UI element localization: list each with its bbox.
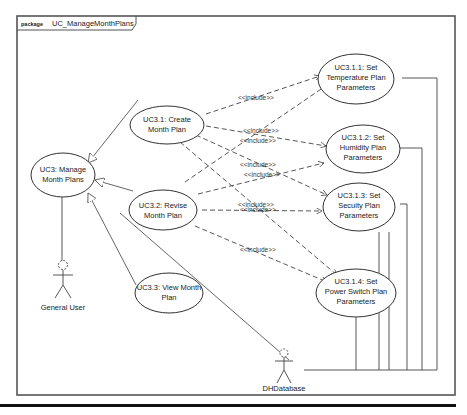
svg-text:Parameters: Parameters bbox=[337, 297, 376, 306]
svg-text:Month Plan: Month Plan bbox=[148, 125, 186, 134]
actor-label: DHDatabase bbox=[263, 384, 306, 393]
svg-text:UC3.2: Revise: UC3.2: Revise bbox=[139, 201, 187, 210]
svg-text:Parameters: Parameters bbox=[337, 83, 376, 92]
svg-text:Humidity Plan: Humidity Plan bbox=[340, 143, 386, 152]
svg-text:Parameters: Parameters bbox=[340, 211, 379, 220]
use-case-uc313[interactable]: UC3.1.3: Set Secuity Plan Parameters bbox=[323, 183, 395, 231]
svg-text:UC3.3: View Month: UC3.3: View Month bbox=[137, 283, 201, 292]
include-labels: <<include>> <<include>> <<include>> <<in… bbox=[238, 94, 280, 253]
svg-text:Power Switch Plan: Power Switch Plan bbox=[325, 287, 388, 296]
svg-text:Secuity Plan: Secuity Plan bbox=[338, 201, 380, 210]
include-label: <<include>> bbox=[240, 206, 276, 213]
actor-label: General User bbox=[41, 303, 86, 312]
use-case-diagram: package UC_ManageMonthPlans <<include>> … bbox=[0, 0, 467, 415]
include-label: <<include>> bbox=[240, 161, 276, 168]
svg-text:UC3.1.4: Set: UC3.1.4: Set bbox=[335, 277, 379, 286]
svg-text:UC3.1: Create: UC3.1: Create bbox=[143, 115, 191, 124]
use-case-uc31[interactable]: UC3.1: Create Month Plan bbox=[130, 106, 204, 144]
generalization-uc32 bbox=[95, 180, 133, 191]
svg-text:Temperature Plan: Temperature Plan bbox=[326, 73, 385, 82]
include-label: <<include>> bbox=[243, 127, 279, 134]
svg-text:UC3.1.2: Set: UC3.1.2: Set bbox=[342, 133, 386, 142]
actor-general-user[interactable]: General User bbox=[41, 261, 86, 313]
use-case-uc3[interactable]: UC3: Manage Month Plans bbox=[31, 153, 95, 197]
svg-text:UC3.1.3: Set: UC3.1.3: Set bbox=[338, 191, 382, 200]
actor-head-icon bbox=[280, 349, 288, 357]
frame-title: UC_ManageMonthPlans bbox=[52, 19, 134, 28]
include-label: <<include>> bbox=[238, 94, 274, 101]
page-rule bbox=[0, 404, 456, 407]
generalization-uc31 bbox=[88, 100, 138, 163]
generalization-uc33 bbox=[88, 193, 136, 285]
actor-dhdatabase[interactable]: DHDatabase bbox=[263, 349, 306, 393]
include-label: <<include>> bbox=[244, 171, 280, 178]
svg-text:Month Plan: Month Plan bbox=[144, 211, 182, 220]
use-case-uc32[interactable]: UC3.2: Revise Month Plan bbox=[129, 190, 197, 230]
frame-keyword: package bbox=[21, 21, 43, 27]
use-case-uc314[interactable]: UC3.1.4: Set Power Switch Plan Parameter… bbox=[316, 269, 396, 317]
use-case-uc311[interactable]: UC3.1.1: Set Temperature Plan Parameters bbox=[318, 54, 394, 104]
svg-text:Plan: Plan bbox=[161, 293, 176, 302]
actor-head-icon bbox=[59, 261, 68, 270]
include-label: <<include>> bbox=[240, 246, 276, 253]
use-case-uc33[interactable]: UC3.3: View Month Plan bbox=[135, 273, 203, 313]
svg-text:Parameters: Parameters bbox=[344, 153, 383, 162]
svg-text:UC3: Manage: UC3: Manage bbox=[40, 165, 86, 174]
include-label: <<include>> bbox=[240, 137, 276, 144]
use-case-uc312[interactable]: UC3.1.2: Set Humidity Plan Parameters bbox=[326, 125, 400, 173]
svg-text:UC3.1.1: Set: UC3.1.1: Set bbox=[335, 63, 379, 72]
svg-text:Month Plans: Month Plans bbox=[42, 175, 84, 184]
